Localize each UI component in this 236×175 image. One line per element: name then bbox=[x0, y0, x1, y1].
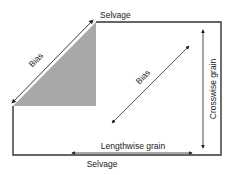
bias-center-arrow bbox=[112, 46, 189, 123]
selvage-bottom-label: Selvage bbox=[87, 159, 118, 169]
bias-cut-triangle bbox=[13, 22, 96, 106]
selvage-top-label: Selvage bbox=[100, 10, 131, 20]
bias-left-label: Bias bbox=[26, 50, 45, 69]
lengthwise-grain-label: Lengthwise grain bbox=[101, 141, 166, 151]
bias-center-label: Bias bbox=[133, 67, 152, 86]
fabric-grain-diagram: Bias Bias Crosswise grain Lengthwise gra… bbox=[0, 0, 236, 175]
crosswise-grain-label: Crosswise grain bbox=[208, 58, 218, 119]
